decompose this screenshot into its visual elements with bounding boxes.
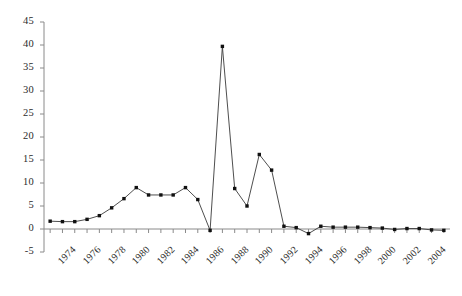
data-point-marker bbox=[98, 214, 101, 217]
y-tick-label: 0 bbox=[8, 223, 34, 234]
y-tick-label: 15 bbox=[8, 154, 34, 165]
axes-group bbox=[40, 22, 450, 252]
y-tick-label: 40 bbox=[8, 39, 34, 50]
line-chart: -5051015202530354045 1974197619781980198… bbox=[0, 0, 462, 296]
data-point-marker bbox=[208, 229, 211, 232]
data-point-marker bbox=[258, 153, 261, 156]
series-markers bbox=[48, 45, 445, 236]
data-point-marker bbox=[295, 226, 298, 229]
data-point-marker bbox=[122, 197, 125, 200]
y-tick-label: 25 bbox=[8, 108, 34, 119]
data-point-marker bbox=[368, 226, 371, 229]
data-point-marker bbox=[171, 193, 174, 196]
data-point-marker bbox=[344, 225, 347, 228]
data-point-marker bbox=[245, 204, 248, 207]
y-tick-label: -5 bbox=[8, 246, 34, 257]
data-point-marker bbox=[221, 45, 224, 48]
y-axis-ticks bbox=[40, 22, 44, 252]
data-point-marker bbox=[442, 229, 445, 232]
data-point-marker bbox=[393, 228, 396, 231]
data-point-marker bbox=[184, 186, 187, 189]
y-tick-label: 10 bbox=[8, 177, 34, 188]
data-point-marker bbox=[110, 206, 113, 209]
data-point-marker bbox=[48, 219, 51, 222]
data-point-marker bbox=[270, 168, 273, 171]
data-point-marker bbox=[282, 225, 285, 228]
y-tick-label: 20 bbox=[8, 131, 34, 142]
y-tick-label: 5 bbox=[8, 200, 34, 211]
data-point-marker bbox=[319, 225, 322, 228]
data-point-marker bbox=[61, 220, 64, 223]
data-point-marker bbox=[85, 218, 88, 221]
data-point-marker bbox=[356, 225, 359, 228]
data-point-marker bbox=[418, 227, 421, 230]
data-series-group bbox=[48, 45, 445, 236]
data-point-marker bbox=[73, 220, 76, 223]
data-point-marker bbox=[135, 186, 138, 189]
data-point-marker bbox=[196, 198, 199, 201]
data-point-marker bbox=[307, 232, 310, 235]
y-tick-label: 30 bbox=[8, 85, 34, 96]
data-point-marker bbox=[233, 187, 236, 190]
data-point-marker bbox=[159, 193, 162, 196]
data-point-marker bbox=[430, 228, 433, 231]
data-point-marker bbox=[405, 227, 408, 230]
x-axis-ticks bbox=[50, 229, 444, 233]
data-point-marker bbox=[147, 193, 150, 196]
data-point-marker bbox=[331, 225, 334, 228]
y-tick-label: 35 bbox=[8, 62, 34, 73]
y-tick-label: 45 bbox=[8, 16, 34, 27]
data-point-marker bbox=[381, 226, 384, 229]
